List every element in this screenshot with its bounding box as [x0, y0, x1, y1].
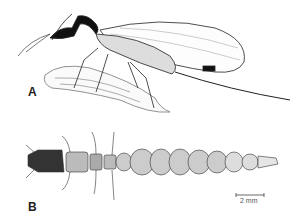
illustration [0, 0, 306, 220]
panel-label-a: A [28, 85, 37, 99]
larva-drawing [26, 132, 278, 200]
scale-bar-label: 2 mm [240, 197, 258, 204]
adult-insect-drawing [18, 14, 290, 112]
panel-label-b: B [28, 200, 37, 214]
figure: A B 2 mm [0, 0, 306, 220]
